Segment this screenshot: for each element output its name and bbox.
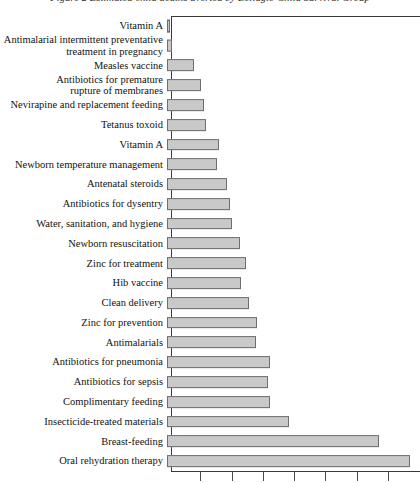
bar-row-label: Newborn temperature management xyxy=(0,159,167,171)
bar-track xyxy=(167,16,420,36)
bar-row: Antimalarial intermittent preventativetr… xyxy=(0,36,420,56)
bar-row-label-line1: Antibiotics for pneumonia xyxy=(52,356,163,367)
bar xyxy=(167,297,249,309)
bar-row: Measles vaccine xyxy=(0,56,420,76)
bar xyxy=(167,277,241,289)
x-axis-tick xyxy=(388,472,389,481)
bar-row-label-line1: Breast-feeding xyxy=(101,436,163,447)
bar-track xyxy=(167,135,420,155)
bar xyxy=(167,119,206,131)
bar-row-label: Antimalarials xyxy=(0,337,167,349)
bar xyxy=(167,99,204,111)
bar-row: Antibiotics for pneumonia xyxy=(0,352,420,372)
bar xyxy=(167,317,257,329)
bar-track xyxy=(167,95,420,115)
bar xyxy=(167,356,270,368)
bar-row-label: Antenatal steroids xyxy=(0,178,167,190)
bar xyxy=(167,257,246,269)
bar xyxy=(167,198,230,210)
bar-track xyxy=(167,392,420,412)
bar-row: Newborn resuscitation xyxy=(0,234,420,254)
bar-row-label: Newborn resuscitation xyxy=(0,238,167,250)
bar-row-label: Clean delivery xyxy=(0,297,167,309)
bar-track xyxy=(167,115,420,135)
bar-track xyxy=(167,412,420,432)
bar-row-label: Complimentary feeding xyxy=(0,396,167,408)
bar-track xyxy=(167,352,420,372)
x-axis-tick xyxy=(357,472,358,481)
bar xyxy=(167,396,270,408)
bar-row-label: Antibiotics for prematurerupture of memb… xyxy=(0,74,167,97)
bar-row-label-line1: Zinc for prevention xyxy=(81,317,163,328)
bar-row-label: Antibiotics for pneumonia xyxy=(0,356,167,368)
bar-row: Hib vaccine xyxy=(0,273,420,293)
bar-track xyxy=(167,75,420,95)
bar xyxy=(167,416,289,428)
bar-row: Insecticide-treated materials xyxy=(0,412,420,432)
bar-row-label: Nevirapine and replacement feeding xyxy=(0,99,167,111)
bar xyxy=(167,178,227,190)
bar-track xyxy=(167,372,420,392)
bar-track xyxy=(167,313,420,333)
bar-track xyxy=(167,253,420,273)
bar xyxy=(167,79,201,91)
bar-row-label: Vitamin A xyxy=(0,139,167,151)
bar xyxy=(167,238,240,250)
bar-track xyxy=(167,273,420,293)
bar-row-label: Antibiotics for dysentry xyxy=(0,198,167,210)
bar-track xyxy=(167,431,420,451)
bar-row: Water, sanitation, and hygiene xyxy=(0,214,420,234)
bar xyxy=(167,158,217,170)
bar-row: Antimalarials xyxy=(0,333,420,353)
bar-row-label-line1: Newborn resuscitation xyxy=(68,238,163,249)
bar-track xyxy=(167,194,420,214)
bar-track xyxy=(167,451,420,471)
x-axis-tick xyxy=(232,472,233,481)
bar-row: Antibiotics for sepsis xyxy=(0,372,420,392)
bar-row: Antibiotics for dysentry xyxy=(0,194,420,214)
bar-row-label: Oral rehydration therapy xyxy=(0,455,167,467)
bar-row: Nevirapine and replacement feeding xyxy=(0,95,420,115)
bar-row-label-line1: Zinc for treatment xyxy=(87,258,163,269)
bar xyxy=(167,337,256,349)
bar-track xyxy=(167,293,420,313)
bar-row-label: Vitamin A xyxy=(0,20,167,32)
bar-row-label-line1: Clean delivery xyxy=(101,297,163,308)
x-axis-tick xyxy=(325,472,326,481)
bar-row-label-line1: Nevirapine and replacement feeding xyxy=(11,99,163,110)
bar-row-label-line1: Newborn temperature management xyxy=(15,159,163,170)
x-axis-tick xyxy=(200,472,201,481)
bar-track xyxy=(167,56,420,76)
bar-row-label-line1: Antibiotics for dysentry xyxy=(63,198,163,209)
bar-row-label-line1: Measles vaccine xyxy=(94,60,163,71)
bar-row: Newborn temperature management xyxy=(0,154,420,174)
bar-row-label: Zinc for prevention xyxy=(0,317,167,329)
bar-row-label-line1: Vitamin A xyxy=(120,139,163,150)
bar xyxy=(167,60,194,72)
bar-row-label: Tetanus toxoid xyxy=(0,119,167,131)
bar-row: Breast-feeding xyxy=(0,431,420,451)
bar-row: Tetanus toxoid xyxy=(0,115,420,135)
bar-track xyxy=(167,36,420,56)
bar-track xyxy=(167,234,420,254)
bar-row: Antibiotics for prematurerupture of memb… xyxy=(0,75,420,95)
x-axis-tick xyxy=(294,472,295,481)
bar-row-label-line1: Antibiotics for sepsis xyxy=(74,376,163,387)
bar-row-label-line1: Antimalarials xyxy=(106,337,163,348)
bar xyxy=(167,139,219,151)
bar-track xyxy=(167,333,420,353)
bar-row: Antenatal steroids xyxy=(0,174,420,194)
bar xyxy=(167,376,268,388)
bar-row: Vitamin A xyxy=(0,135,420,155)
x-axis-tick xyxy=(263,472,264,481)
bar-row-label-line1: Antimalarial intermittent preventative xyxy=(4,34,163,45)
bar-track xyxy=(167,154,420,174)
bar-row-label-line1: Antibiotics for premature xyxy=(56,74,163,85)
bar-row: Clean delivery xyxy=(0,293,420,313)
bar-row: Complimentary feeding xyxy=(0,392,420,412)
bar-row-label: Water, sanitation, and hygiene xyxy=(0,218,167,230)
bar-rows-container: Vitamin AAntimalarial intermittent preve… xyxy=(0,16,420,471)
bar-row-label: Zinc for treatment xyxy=(0,258,167,270)
bar-row-label-line1: Insecticide-treated materials xyxy=(44,416,163,427)
bar xyxy=(167,20,170,33)
